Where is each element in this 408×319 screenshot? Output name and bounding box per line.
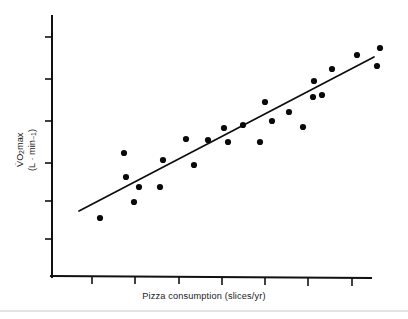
y-axis-title-subscript: 2 [18,150,25,154]
x-axis-line [51,276,371,278]
data-point [269,118,275,124]
data-point [205,137,211,143]
data-point [286,109,292,115]
x-axis-group [51,276,371,286]
y-axis-title-main: V̇O [16,154,25,167]
x-axis-title: Pizza consumption (slices/yr) [0,291,408,301]
data-point [240,122,246,128]
data-point [300,124,306,130]
data-point [157,184,163,190]
data-point [225,139,231,145]
data-point [191,162,197,168]
data-point [262,99,268,105]
data-point [221,125,227,131]
regression-trend-line [79,57,374,211]
data-point [377,45,383,51]
data-point [374,63,380,69]
data-point [131,199,137,205]
y-axis-units-post: ) [28,129,37,132]
data-point [123,174,129,180]
data-point [183,136,189,142]
data-point [121,150,127,156]
y-axis-units-superscript: −1 [30,132,37,140]
data-point [136,184,142,190]
data-point [354,52,360,58]
data-point [329,66,335,72]
data-point [160,157,166,163]
data-point [97,215,103,221]
data-point [257,139,263,145]
scatter-plot-figure: V̇O2max (L · min−1) Pizza consumption (s… [0,0,408,319]
y-axis-title-tail: max [16,133,25,150]
data-point-series [97,45,383,221]
y-axis-title-line2: (L · min−1) [26,104,40,196]
y-axis-title: V̇O2max (L · min−1) [8,104,52,196]
data-point [319,92,325,98]
y-axis-units-pre: (L · min [28,140,37,171]
data-point [311,78,317,84]
data-point [310,94,316,100]
plot-canvas [0,0,408,319]
